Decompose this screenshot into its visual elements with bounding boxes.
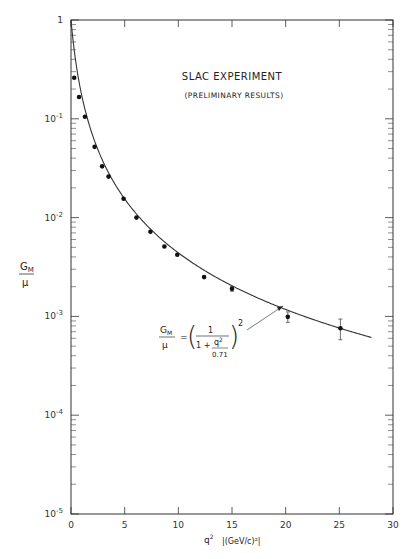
data-point xyxy=(134,215,139,220)
x-axis-label: q2 |(GeV/c)²| xyxy=(204,533,261,546)
y-axis-label: GM μ xyxy=(19,261,34,288)
data-point xyxy=(338,326,343,331)
data-points xyxy=(72,76,343,340)
x-tick-label: 0 xyxy=(68,520,74,530)
data-point xyxy=(162,244,167,249)
chart-subtitle: (PRELIMINARY RESULTS) xyxy=(185,91,284,100)
data-point xyxy=(72,76,77,81)
x-tick-label: 15 xyxy=(226,520,237,530)
annotation-arrow xyxy=(247,306,283,330)
data-point xyxy=(148,229,153,234)
y-tick-label: 10-4 xyxy=(45,408,64,420)
x-label-main: q2 xyxy=(204,533,214,545)
data-point xyxy=(286,315,291,320)
chart-title: SLAC EXPERIMENT xyxy=(182,71,283,82)
x-label-units: |(GeV/c)²| xyxy=(222,537,261,546)
form-factor-chart: 110-110-210-310-410-5 051015202530 SLAC … xyxy=(0,0,419,559)
fit-equation-annotation: GM μ = ( 1 1 + q2 0.71 ) 2 xyxy=(159,306,283,359)
x-tick-label: 25 xyxy=(334,520,345,530)
data-point xyxy=(77,95,82,100)
data-point xyxy=(175,253,180,258)
y-tick-label: 10-1 xyxy=(45,112,63,124)
x-tick-label: 10 xyxy=(173,520,185,530)
y-tick-label: 10-3 xyxy=(45,309,63,321)
data-point xyxy=(121,196,126,201)
data-point xyxy=(230,287,235,292)
y-label-num: GM xyxy=(20,261,34,274)
svg-text:q2: q2 xyxy=(214,336,223,347)
data-point xyxy=(100,164,105,169)
y-label-den: μ xyxy=(22,277,29,288)
data-point xyxy=(202,275,207,280)
y-tick-label: 1 xyxy=(57,15,63,25)
y-tick-label: 10-2 xyxy=(45,211,63,223)
data-point xyxy=(92,145,97,150)
x-tick-label: 20 xyxy=(280,520,292,530)
data-point xyxy=(106,174,111,179)
svg-text:2: 2 xyxy=(238,319,243,328)
fit-curve xyxy=(71,20,372,338)
x-tick-label: 5 xyxy=(122,520,128,530)
svg-text:GM: GM xyxy=(160,325,172,336)
svg-text:1: 1 xyxy=(208,326,213,335)
svg-text:1 +: 1 + xyxy=(196,341,210,350)
y-tick-label: 10-5 xyxy=(45,507,63,519)
svg-text:0.71: 0.71 xyxy=(212,351,228,359)
svg-text:μ: μ xyxy=(162,340,168,350)
x-tick-label: 30 xyxy=(387,520,399,530)
data-point xyxy=(83,114,88,119)
